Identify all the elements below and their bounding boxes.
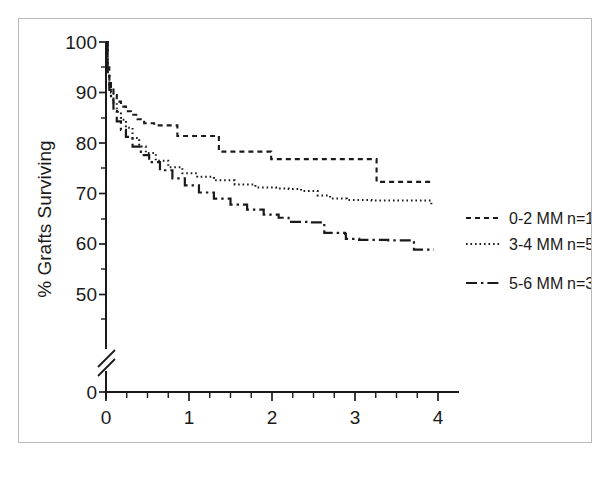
survival-chart: 100 90 80 70 60 50 0	[19, 19, 591, 442]
y-tick-label-100: 100	[65, 32, 97, 53]
x-tick-label-2: 2	[267, 407, 278, 428]
y-tick-label-0: 0	[86, 382, 97, 403]
legend-label-0-2-mm: 0-2 MM	[509, 210, 563, 227]
y-tick-label-70: 70	[76, 183, 97, 204]
figure-root: 100 90 80 70 60 50 0	[0, 0, 611, 480]
legend-label-3-4-mm: 3-4 MM	[509, 236, 563, 253]
x-tick-label-1: 1	[184, 407, 195, 428]
curve-0-2-mm	[106, 42, 434, 182]
x-tick-label-3: 3	[350, 407, 361, 428]
legend-label-5-6-mm: 5-6 MM	[509, 275, 563, 292]
x-tick-label-4: 4	[433, 407, 444, 428]
x-major-ticks	[106, 392, 438, 401]
y-axis-title: % Grafts Surviving	[34, 140, 55, 297]
x-tick-label-0: 0	[101, 407, 112, 428]
legend-count-3-4-mm: n=554	[567, 236, 591, 253]
x-tick-labels: 0 1 2 3 4	[101, 407, 444, 428]
legend: 0-2 MM n=118 3-4 MM n=554 5-6 MM n=356	[466, 210, 591, 292]
y-tick-label-60: 60	[76, 233, 97, 254]
y-tick-label-90: 90	[76, 82, 97, 103]
y-major-ticks	[99, 42, 106, 392]
y-tick-label-80: 80	[76, 133, 97, 154]
curves-group	[106, 42, 434, 250]
y-tick-labels: 100 90 80 70 60 50 0	[65, 32, 97, 403]
figure-frame: 100 90 80 70 60 50 0	[18, 18, 592, 443]
x-axis-title: Years	[248, 439, 296, 442]
curve-5-6-mm	[106, 42, 434, 250]
legend-count-5-6-mm: n=356	[567, 275, 591, 292]
legend-count-0-2-mm: n=118	[567, 210, 591, 227]
y-tick-label-50: 50	[76, 284, 97, 305]
